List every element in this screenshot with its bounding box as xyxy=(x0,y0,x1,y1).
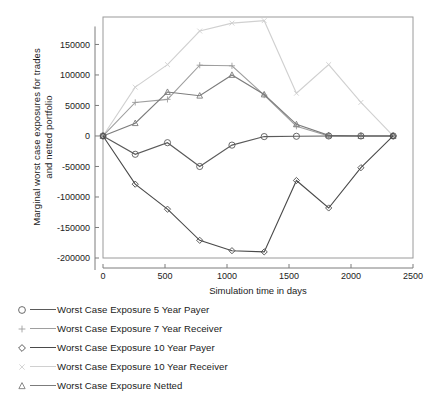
legend-label: Worst Case Exposure Netted xyxy=(57,380,182,391)
x-axis-tick-label: 0 xyxy=(100,271,105,281)
legend-item[interactable]: Worst Case Exposure 7 Year Receiver xyxy=(14,319,424,338)
y-axis-tick-label: -50000 xyxy=(62,162,90,172)
plus-marker-icon xyxy=(14,321,30,337)
chart-figure: Marginal worst case exposures for trades… xyxy=(0,0,437,401)
x-axis-tick-label: 1000 xyxy=(217,271,237,281)
diamond-marker-icon xyxy=(19,344,26,351)
x-axis-tick-label: 1500 xyxy=(279,271,299,281)
cross-marker-icon xyxy=(133,85,138,90)
y-axis-tick-label: -150000 xyxy=(57,223,90,233)
series-circle xyxy=(100,133,396,170)
legend-line-swatch xyxy=(30,328,56,329)
diamond-marker-icon xyxy=(14,340,30,356)
legend-label: Worst Case Exposure 10 Year Payer xyxy=(57,342,215,353)
circle-marker-icon xyxy=(14,302,30,318)
series-layer xyxy=(100,18,396,255)
legend-line-swatch xyxy=(30,347,56,348)
x-axis-tick-label: 2000 xyxy=(341,271,361,281)
legend-label: Worst Case Exposure 10 Year Receiver xyxy=(57,361,228,372)
series-path xyxy=(103,75,393,136)
x-axis-tick-label: 2500 xyxy=(403,271,423,281)
series-path xyxy=(103,65,393,136)
legend-line-swatch xyxy=(30,366,56,367)
y-axis-tick-label: 50000 xyxy=(65,101,90,111)
triangle-marker-icon xyxy=(19,382,25,388)
legend-item[interactable]: Worst Case Exposure 10 Year Receiver xyxy=(14,357,424,376)
triangle-marker-icon xyxy=(14,378,30,394)
y-axis: 150000100000500000-50000-100000-150000-2… xyxy=(57,26,99,270)
legend-label: Worst Case Exposure 7 Year Receiver xyxy=(57,323,222,334)
cross-marker-icon xyxy=(326,62,331,67)
series-plus xyxy=(100,62,396,139)
series-path xyxy=(103,136,393,167)
plus-marker-icon xyxy=(19,325,26,332)
legend-item[interactable]: Worst Case Exposure 5 Year Payer xyxy=(14,300,424,319)
y-axis-tick-label: 100000 xyxy=(60,70,90,80)
cross-marker-icon xyxy=(165,62,170,67)
series-triangle xyxy=(100,72,396,139)
legend-line-swatch xyxy=(30,385,56,386)
x-axis: 05001000150020002500 xyxy=(100,264,423,281)
legend-line-swatch xyxy=(30,309,56,310)
series-cross xyxy=(101,18,396,138)
x-axis-tick-label: 500 xyxy=(157,271,172,281)
legend-item[interactable]: Worst Case Exposure 10 Year Payer xyxy=(14,338,424,357)
y-axis-tick-label: -100000 xyxy=(57,192,90,202)
plot-frame xyxy=(103,17,413,258)
y-axis-tick-label: 0 xyxy=(85,131,90,141)
cross-marker-icon xyxy=(19,364,24,369)
x-axis-title: Simulation time in days xyxy=(209,285,307,296)
series-path xyxy=(103,21,393,136)
cross-marker-icon xyxy=(294,91,299,96)
cross-marker-icon xyxy=(14,359,30,375)
legend-item[interactable]: Worst Case Exposure Netted xyxy=(14,376,424,395)
y-axis-tick-label: -200000 xyxy=(57,253,90,263)
cross-marker-icon xyxy=(359,100,364,105)
chart-legend: Worst Case Exposure 5 Year Payer Worst C… xyxy=(14,300,424,395)
circle-marker-icon xyxy=(19,306,26,313)
legend-label: Worst Case Exposure 5 Year Payer xyxy=(57,304,209,315)
series-path xyxy=(103,136,393,252)
y-axis-tick-label: 150000 xyxy=(60,40,90,50)
